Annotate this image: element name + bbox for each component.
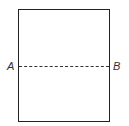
label-b: B	[113, 61, 120, 72]
label-a: A	[7, 61, 14, 72]
dashed-line-ab	[19, 66, 109, 67]
